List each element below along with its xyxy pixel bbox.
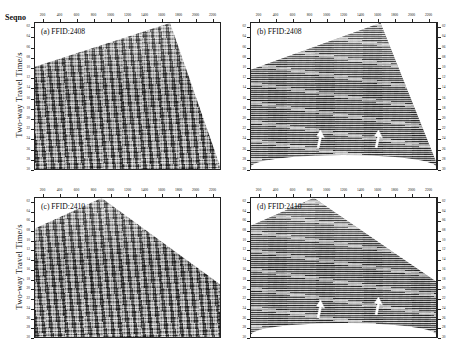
x-tick-label: 800 bbox=[307, 14, 312, 18]
x-tick-label: 1200 bbox=[124, 189, 131, 193]
y-tick bbox=[438, 221, 441, 222]
panel-d-wedge bbox=[251, 198, 436, 337]
y-tick-label: 14 bbox=[442, 259, 445, 262]
panel-c-title: (c) FFID:2410 bbox=[41, 202, 85, 211]
y-tick-label: 24 bbox=[243, 307, 246, 310]
x-tick-label: 400 bbox=[273, 14, 278, 18]
x-tick-label: 1800 bbox=[175, 14, 182, 18]
y-tick-label: 04 bbox=[27, 210, 30, 213]
y-tick-label: 02 bbox=[442, 25, 445, 28]
y-tick-label: 12 bbox=[243, 76, 246, 79]
y-tick-label: 22 bbox=[243, 297, 246, 300]
y-tick-label: 20 bbox=[27, 288, 30, 291]
y-tick-label: 14 bbox=[27, 259, 30, 262]
y-tick-label: 22 bbox=[243, 127, 246, 130]
x-tick-label: 1200 bbox=[340, 189, 347, 193]
y-tick-label: 14 bbox=[243, 259, 246, 262]
panel-a-plot-area: (a) FFID:2408 bbox=[34, 22, 221, 170]
y-tick-label: 10 bbox=[243, 66, 246, 69]
panel-b-plot-area: (b) FFID:2408 bbox=[250, 22, 437, 170]
y-tick-label: 20 bbox=[243, 288, 246, 291]
x-tick-label: 400 bbox=[57, 14, 62, 18]
y-tick bbox=[438, 150, 441, 151]
y-tick-label: 04 bbox=[442, 36, 445, 39]
panel-a-y-axis-label: Two-way Travel Time/s bbox=[14, 40, 24, 150]
y-tick-label: 06 bbox=[442, 220, 445, 223]
x-tick-label: 600 bbox=[74, 14, 79, 18]
y-tick-label: 02 bbox=[243, 25, 246, 28]
y-tick-label: 12 bbox=[243, 249, 246, 252]
x-tick-label: 2200 bbox=[209, 189, 216, 193]
y-tick-label: 26 bbox=[243, 317, 246, 320]
x-tick-label: 1800 bbox=[391, 14, 398, 18]
y-tick-label: 18 bbox=[442, 278, 445, 281]
panel-c-y-axis-label: Two-way Travel Time/s bbox=[14, 212, 24, 322]
y-tick-label: 04 bbox=[442, 210, 445, 213]
y-tick-label: 14 bbox=[243, 87, 246, 90]
y-tick-label: 16 bbox=[27, 97, 30, 100]
x-tick-label: 200 bbox=[40, 189, 45, 193]
panel-a-title: (a) FFID:2408 bbox=[41, 27, 85, 36]
x-tick-label: 400 bbox=[273, 189, 278, 193]
y-tick-label: 26 bbox=[27, 148, 30, 151]
panel-d-title: (d) FFID:2410 bbox=[257, 202, 302, 211]
y-tick-label: 06 bbox=[442, 46, 445, 49]
y-tick-label: 30 bbox=[243, 168, 246, 171]
y-tick bbox=[31, 170, 34, 171]
x-tick-label: 800 bbox=[91, 14, 96, 18]
y-tick-label: 18 bbox=[27, 107, 30, 110]
y-tick-label: 10 bbox=[442, 66, 445, 69]
x-tick-label: 1000 bbox=[107, 14, 114, 18]
y-tick bbox=[438, 299, 441, 300]
x-tick-label: 200 bbox=[256, 189, 261, 193]
y-tick-label: 24 bbox=[442, 138, 445, 141]
x-tick-label: 1200 bbox=[340, 14, 347, 18]
x-tick-label: 1000 bbox=[323, 189, 330, 193]
y-tick-label: 12 bbox=[27, 76, 30, 79]
panel-c-wedge bbox=[35, 198, 220, 337]
seqno-axis-label: Seqno bbox=[5, 13, 26, 22]
y-tick-label: 16 bbox=[27, 268, 30, 271]
x-tick-label: 2000 bbox=[408, 14, 415, 18]
x-tick-label: 1600 bbox=[158, 189, 165, 193]
y-tick-label: 08 bbox=[442, 229, 445, 232]
x-tick-label: 2000 bbox=[408, 189, 415, 193]
y-tick-label: 26 bbox=[442, 148, 445, 151]
y-tick bbox=[438, 260, 441, 261]
x-tick-label: 1800 bbox=[175, 189, 182, 193]
seismic-figure: Seqno 2004006008001000120014001600180020… bbox=[0, 0, 466, 350]
y-tick-label: 12 bbox=[27, 249, 30, 252]
y-tick-label: 30 bbox=[243, 336, 246, 339]
y-tick bbox=[438, 129, 441, 130]
y-tick-label: 06 bbox=[243, 46, 246, 49]
y-tick bbox=[247, 338, 250, 339]
y-tick-label: 30 bbox=[442, 336, 445, 339]
y-tick-label: 16 bbox=[243, 268, 246, 271]
y-tick-label: 04 bbox=[243, 36, 246, 39]
y-tick-label: 08 bbox=[243, 56, 246, 59]
x-tick-label: 2200 bbox=[425, 14, 432, 18]
x-tick-label: 1600 bbox=[158, 14, 165, 18]
x-tick-label: 200 bbox=[256, 14, 261, 18]
x-tick-label: 1000 bbox=[107, 189, 114, 193]
y-tick bbox=[438, 319, 441, 320]
y-tick-label: 10 bbox=[243, 239, 246, 242]
panel-b-title: (b) FFID:2408 bbox=[257, 27, 302, 36]
x-tick-label: 2000 bbox=[192, 189, 199, 193]
y-tick-label: 30 bbox=[442, 168, 445, 171]
x-tick-label: 800 bbox=[307, 189, 312, 193]
y-tick-label: 28 bbox=[243, 327, 246, 330]
y-tick-label: 08 bbox=[243, 229, 246, 232]
y-tick bbox=[438, 37, 441, 38]
x-tick-label: 1400 bbox=[357, 189, 364, 193]
y-tick bbox=[438, 99, 441, 100]
y-tick-label: 08 bbox=[27, 56, 30, 59]
y-tick-label: 26 bbox=[442, 317, 445, 320]
x-tick-label: 2000 bbox=[192, 14, 199, 18]
y-tick-label: 28 bbox=[243, 158, 246, 161]
y-tick-label: 28 bbox=[27, 327, 30, 330]
y-tick bbox=[438, 119, 441, 120]
panel-a-wedge bbox=[35, 23, 220, 169]
y-tick-label: 18 bbox=[442, 107, 445, 110]
y-tick-label: 20 bbox=[27, 117, 30, 120]
